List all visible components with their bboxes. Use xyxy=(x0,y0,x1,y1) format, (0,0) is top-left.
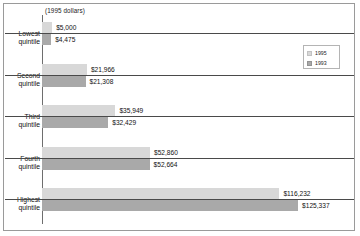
bar-value-label: $32,429 xyxy=(112,117,136,128)
bar-1993-3 xyxy=(42,117,108,128)
group-separator xyxy=(5,199,354,200)
bar-value-label: $21,966 xyxy=(91,64,115,75)
bar-value-label: $52,664 xyxy=(154,159,178,170)
legend-label: 1993 xyxy=(315,60,327,66)
group-separator xyxy=(5,33,354,34)
group-separator xyxy=(5,75,354,76)
category-label-line: quintile xyxy=(4,80,40,88)
category-label-line: quintile xyxy=(4,121,40,129)
category-label-line: Lowest xyxy=(4,30,40,38)
bar-1995-5 xyxy=(42,188,279,199)
bar-1995-3 xyxy=(42,105,115,116)
bar-value-label: $116,232 xyxy=(283,188,310,199)
category-label-line: Fourth xyxy=(4,155,40,163)
category-label-line: quintile xyxy=(4,163,40,171)
legend-item: 1993 xyxy=(307,59,339,67)
category-label-line: quintile xyxy=(4,204,40,212)
bar-value-label: $52,860 xyxy=(154,147,178,158)
bar-1993-5 xyxy=(42,200,298,211)
bar-1993-2 xyxy=(42,76,86,87)
bar-1993-4 xyxy=(42,159,150,170)
bar-1995-2 xyxy=(42,64,87,75)
units-note: (1995 dollars) xyxy=(45,7,85,14)
chart-frame: (1995 dollars) Lowestquintile$5,000$4,47… xyxy=(3,3,355,231)
plot-area: (1995 dollars) Lowestquintile$5,000$4,47… xyxy=(4,4,356,232)
bar-value-label: $21,308 xyxy=(90,76,114,87)
legend-item: 1995 xyxy=(307,49,339,57)
legend-label: 1995 xyxy=(315,50,327,56)
bar-value-label: $125,337 xyxy=(302,200,330,211)
bar-value-label: $35,949 xyxy=(119,105,143,116)
category-label-line: quintile xyxy=(4,38,40,46)
category-label-line: Third xyxy=(4,113,40,121)
group-separator xyxy=(5,116,354,117)
legend-swatch-1995 xyxy=(307,51,312,56)
bar-value-label: $4,475 xyxy=(55,34,75,45)
chart-legend: 19951993 xyxy=(303,45,340,69)
bar-1993-1 xyxy=(42,34,51,45)
category-label-line: Highest xyxy=(4,196,40,204)
bar-1995-4 xyxy=(42,147,150,158)
legend-swatch-1993 xyxy=(307,61,312,66)
bar-value-label: $5,000 xyxy=(56,22,76,33)
group-separator xyxy=(5,158,354,159)
category-label-line: Second xyxy=(4,72,40,80)
bar-1995-1 xyxy=(42,22,52,33)
